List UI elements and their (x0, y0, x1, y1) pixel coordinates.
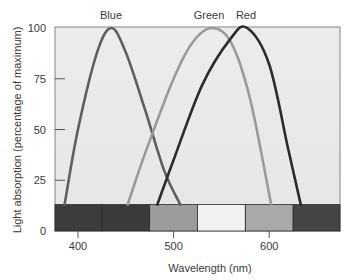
plot-area (55, 27, 340, 231)
x-tick-label: 500 (164, 240, 182, 252)
absorption-chart: 0255075100 400500600 Blue Green Red Wave… (0, 0, 352, 280)
x-axis-title: Wavelength (nm) (168, 262, 251, 274)
y-tick-label: 0 (40, 225, 46, 237)
spectrum-segment (293, 205, 340, 231)
y-axis-title: Light absorption (percentage of maximum) (11, 27, 23, 234)
x-tick-label: 600 (260, 240, 278, 252)
spectrum-segment (102, 205, 150, 231)
spectrum-segment (245, 205, 293, 231)
curve-label-red: Red (236, 9, 256, 21)
x-tick-label: 400 (69, 240, 87, 252)
spectrum-segment (198, 205, 246, 231)
y-tick-label: 75 (34, 73, 46, 85)
spectrum-segment (150, 205, 198, 231)
spectrum-segment (55, 205, 102, 231)
curve-label-blue: Blue (100, 9, 122, 21)
spectrum-bar (55, 205, 340, 231)
x-axis: 400500600 (69, 231, 279, 252)
y-tick-label: 50 (34, 124, 46, 136)
y-tick-label: 100 (28, 22, 46, 34)
y-tick-label: 25 (34, 174, 46, 186)
curve-label-green: Green (194, 9, 225, 21)
